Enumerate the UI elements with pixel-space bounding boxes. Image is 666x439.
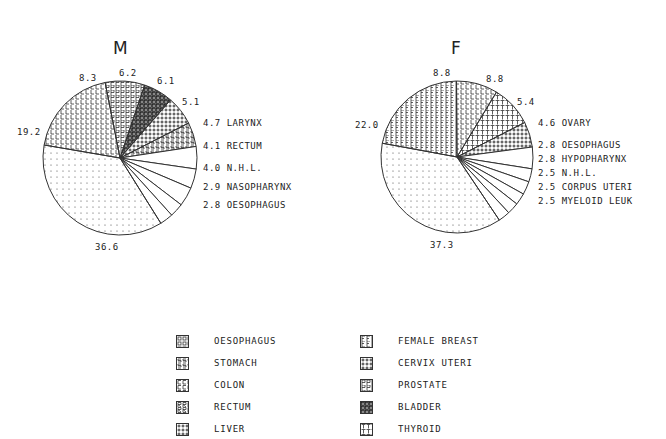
male-label-nasopharynx: 2.9 NASOPHARYNX [203,182,292,192]
legend-item-colon: COLON [176,378,245,392]
pie-charts [0,0,666,439]
cervix-uteri-swatch-icon [360,357,373,370]
female-label-ovary: 4.6 OVARY [538,118,591,128]
legend-item-oesophagus: OESOPHAGUS [176,334,276,348]
liver-swatch-icon [176,423,189,436]
legend-item-bladder: BLADDER [360,400,442,414]
legend-item-thyroid: THYROID [360,422,442,436]
male-label-rectum: 4.1 RECTUM [203,141,262,151]
male-label-bladder: 6.2 [119,68,137,78]
legend-item-stomach: STOMACH [176,356,258,370]
male-label-oesophagus: 2.8 OESOPHAGUS [203,200,286,210]
female-label-cervix: 5.4 [517,97,535,107]
male-pie [43,81,197,235]
legend-item-female-breast: FEMALE BREAST [360,334,479,348]
female-label-corpus: 2.5 CORPUS UTERI [538,182,633,192]
male-label-liver: 6.1 [157,76,175,86]
legend-item-prostate: PROSTATE [360,378,448,392]
oesophagus-swatch-icon [176,335,189,348]
female-label-lung: 8.8 [433,68,451,78]
female-label-oesophagus: 2.8 OESOPHAGUS [538,140,621,150]
legend-item-rectum: RECTUM [176,400,251,414]
female-label-nhl: 2.5 N.H.L. [538,168,597,178]
legend-item-liver: LIVER [176,422,245,436]
female-label-myeloid: 2.5 MYELOID LEUK [538,196,633,206]
legend-item-cervix-uteri: CERVIX UTERI [360,356,473,370]
male-label-nhl: 4.0 N.H.L. [203,163,262,173]
male-label-lung: 19.2 [17,127,41,137]
male-label-other: 36.6 [95,242,119,252]
rectum-swatch-icon [176,401,189,414]
stomach-swatch-icon [176,357,189,370]
female-pie [381,81,533,233]
female-label-other: 37.3 [430,240,454,250]
male-label-stomach: 5.1 [182,97,200,107]
pie-slice [382,81,457,157]
female-label-thyroid: 8.8 [486,74,504,84]
colon-swatch-icon [176,379,189,392]
bladder-swatch-icon [360,401,373,414]
male-label-larynx: 4.7 LARYNX [203,118,262,128]
male-label-prostate: 8.3 [79,73,97,83]
female-label-breast: 22.0 [355,120,379,130]
female-breast-swatch-icon [360,335,373,348]
female-label-hypopharynx: 2.8 HYPOPHARYNX [538,154,627,164]
thyroid-swatch-icon [360,423,373,436]
prostate-swatch-icon [360,379,373,392]
